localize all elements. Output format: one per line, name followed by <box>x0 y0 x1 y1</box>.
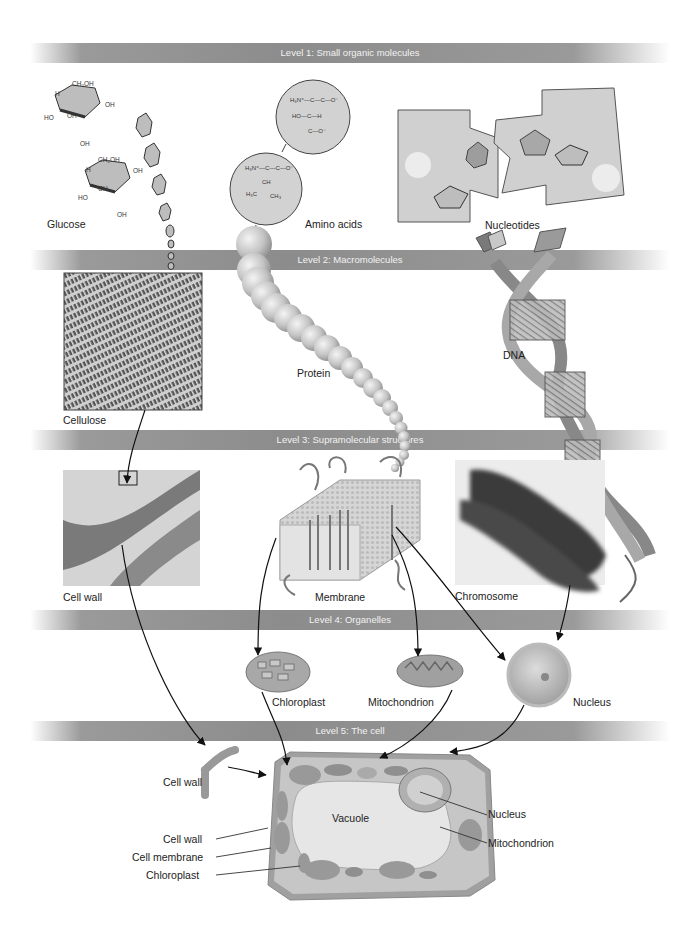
cell-wall-piece-label: Cell wall <box>163 776 202 788</box>
svg-text:H₃N⁺—C—C—O⁻: H₃N⁺—C—C—O⁻ <box>290 97 338 103</box>
callout-cell-wall: Cell wall <box>163 833 202 845</box>
mitochondrion-organelle <box>397 655 463 687</box>
svg-text:CH₂OH: CH₂OH <box>72 80 94 87</box>
mitochondrion-label: Mitochondrion <box>368 696 434 708</box>
svg-text:CH: CH <box>262 179 271 185</box>
amino-acids-label: Amino acids <box>305 218 362 230</box>
svg-text:HO: HO <box>44 114 54 121</box>
callout-chloroplast: Chloroplast <box>146 869 199 881</box>
callout-cell-membrane: Cell membrane <box>132 851 203 863</box>
nucleotide-2 <box>494 88 624 205</box>
svg-text:HO—C—H: HO—C—H <box>292 113 322 119</box>
cellulose-label: Cellulose <box>63 414 106 426</box>
svg-text:OH: OH <box>117 211 127 218</box>
svg-text:OH: OH <box>67 112 77 119</box>
membrane-label: Membrane <box>315 591 365 603</box>
svg-text:OH: OH <box>105 101 115 108</box>
amino-acid-2: H₃N⁺—C—C—O⁻CHH₃CCH₃ <box>230 153 302 225</box>
svg-text:OH: OH <box>80 140 90 147</box>
svg-text:CH₃: CH₃ <box>270 193 282 199</box>
svg-text:H₃N⁺—C—C—O⁻: H₃N⁺—C—C—O⁻ <box>245 165 293 171</box>
vacuole-label: Vacuole <box>332 812 369 824</box>
cellulose-chain <box>136 113 174 270</box>
svg-text:H: H <box>55 90 60 97</box>
chloroplast-organelle <box>246 652 310 692</box>
chromosome-label: Chromosome <box>455 590 518 602</box>
amino-acid-1: H₃N⁺—C—C—O⁻HO—C—HC—O⁻ <box>276 80 350 154</box>
cell-wall-label: Cell wall <box>63 591 102 603</box>
callout-mitochondrion: Mitochondrion <box>488 837 554 849</box>
nucleus-organelle <box>508 644 570 706</box>
nucleus-label: Nucleus <box>573 696 611 708</box>
diagram-graphics: CH₂OHOHHO OHOHH CH₂OHOHHO OHOHH H₃N⁺—C—C… <box>0 0 687 926</box>
svg-text:H: H <box>86 166 91 173</box>
svg-text:H₃C: H₃C <box>246 191 258 197</box>
svg-text:OH: OH <box>133 167 143 174</box>
svg-text:HO: HO <box>78 194 88 201</box>
glucose-molecule-1 <box>55 85 100 117</box>
protein-label: Protein <box>297 367 330 379</box>
glucose-label: Glucose <box>47 218 86 230</box>
nucleotides-label: Nucleotides <box>485 219 540 231</box>
protein-chain <box>236 226 411 472</box>
svg-text:C—O⁻: C—O⁻ <box>308 128 326 134</box>
callout-nucleus: Nucleus <box>488 808 526 820</box>
svg-text:OH: OH <box>98 185 108 192</box>
nucleotide-1 <box>398 110 498 222</box>
chloroplast-label: Chloroplast <box>272 696 325 708</box>
svg-text:CH₂OH: CH₂OH <box>98 156 120 163</box>
cellulose-image <box>64 273 202 410</box>
dna-label: DNA <box>503 349 525 361</box>
plant-cell <box>268 752 495 900</box>
membrane-model <box>280 457 420 595</box>
